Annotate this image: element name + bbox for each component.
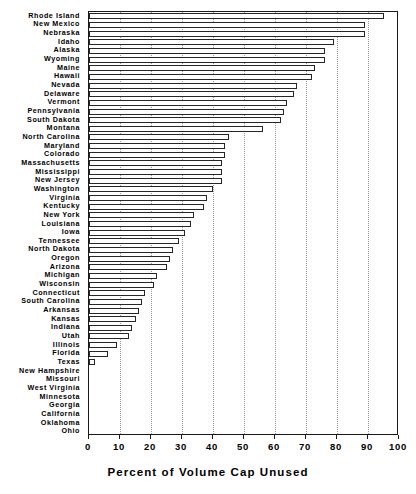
bar-series bbox=[89, 12, 397, 434]
category-label-new-jersey: New Jersey bbox=[35, 175, 80, 184]
category-label-california: California bbox=[41, 409, 80, 418]
category-label-hawaii: Hawaii bbox=[54, 71, 80, 80]
bar-louisiana bbox=[89, 221, 191, 227]
category-label-delaware: Delaware bbox=[44, 89, 80, 98]
category-label-missouri: Missouri bbox=[46, 374, 80, 383]
category-label-arizona: Arizona bbox=[50, 262, 80, 271]
category-label-maryland: Maryland bbox=[44, 141, 80, 150]
category-label-louisiana: Louisiana bbox=[42, 219, 81, 228]
bar-south-carolina bbox=[89, 299, 142, 305]
category-label-south-dakota: South Dakota bbox=[27, 115, 80, 124]
bar-delaware bbox=[89, 91, 294, 97]
x-tick-label-30: 30 bbox=[175, 441, 187, 452]
bar-virginia bbox=[89, 195, 207, 201]
bar-kansas bbox=[89, 316, 136, 322]
x-tick-label-40: 40 bbox=[206, 441, 218, 452]
bar-tennessee bbox=[89, 238, 179, 244]
x-tick-label-60: 60 bbox=[268, 441, 280, 452]
bar-arizona bbox=[89, 264, 167, 270]
category-label-tennessee: Tennessee bbox=[38, 236, 80, 245]
x-axis-tick-labels: 0102030405060708090100 bbox=[88, 441, 398, 455]
bar-new-mexico bbox=[89, 22, 365, 28]
bar-florida bbox=[89, 351, 108, 357]
category-label-oregon: Oregon bbox=[51, 253, 80, 262]
category-label-arkansas: Arkansas bbox=[43, 305, 80, 314]
bar-michigan bbox=[89, 273, 157, 279]
bar-montana bbox=[89, 126, 263, 132]
category-label-new-mexico: New Mexico bbox=[33, 19, 80, 28]
x-tick-10 bbox=[119, 435, 120, 439]
bar-mississippi bbox=[89, 169, 222, 175]
x-tick-label-70: 70 bbox=[299, 441, 311, 452]
category-label-utah: Utah bbox=[62, 331, 80, 340]
bar-iowa bbox=[89, 230, 185, 236]
category-label-illinois: Illinois bbox=[53, 340, 80, 349]
bar-rhode-island bbox=[89, 13, 384, 19]
bar-massachusetts bbox=[89, 160, 222, 166]
category-label-north-dakota: North Dakota bbox=[28, 244, 80, 253]
category-label-minnesota: Minnesota bbox=[40, 392, 81, 401]
category-label-florida: Florida bbox=[52, 348, 80, 357]
category-label-south-carolina: South Carolina bbox=[21, 296, 80, 305]
x-tick-90 bbox=[367, 435, 368, 439]
category-label-massachusetts: Massachusetts bbox=[21, 158, 80, 167]
category-label-mississippi: Mississippi bbox=[35, 167, 80, 176]
bar-arkansas bbox=[89, 308, 139, 314]
category-label-virginia: Virginia bbox=[49, 193, 80, 202]
x-tick-30 bbox=[181, 435, 182, 439]
x-tick-label-20: 20 bbox=[144, 441, 156, 452]
category-label-wisconsin: Wisconsin bbox=[39, 279, 80, 288]
category-label-montana: Montana bbox=[47, 123, 80, 132]
category-label-indiana: Indiana bbox=[51, 322, 80, 331]
category-label-kansas: Kansas bbox=[51, 314, 80, 323]
category-label-nevada: Nevada bbox=[51, 80, 80, 89]
bar-nebraska bbox=[89, 31, 365, 37]
category-label-new-hampshire: New Hampshire bbox=[19, 366, 80, 375]
bar-indiana bbox=[89, 325, 132, 331]
x-axis-title: Percent of Volume Cap Unused bbox=[0, 466, 416, 478]
category-label-idaho: Idaho bbox=[58, 37, 80, 46]
bar-pennsylvania bbox=[89, 109, 284, 115]
bar-kentucky bbox=[89, 204, 204, 210]
category-label-connecticut: Connecticut bbox=[32, 288, 80, 297]
x-tick-label-10: 10 bbox=[113, 441, 125, 452]
x-tick-0 bbox=[88, 435, 89, 439]
bar-north-carolina bbox=[89, 134, 229, 140]
x-tick-label-80: 80 bbox=[330, 441, 342, 452]
x-tick-label-50: 50 bbox=[237, 441, 249, 452]
bar-washington bbox=[89, 186, 213, 192]
bar-alaska bbox=[89, 48, 325, 54]
category-label-west-virginia: West Virginia bbox=[28, 383, 80, 392]
category-label-washington: Washington bbox=[34, 184, 80, 193]
category-label-texas: Texas bbox=[57, 357, 80, 366]
bar-colorado bbox=[89, 152, 225, 158]
category-label-kentucky: Kentucky bbox=[43, 201, 80, 210]
category-label-colorado: Colorado bbox=[44, 149, 80, 158]
category-axis-labels: Rhode IslandNew MexicoNebraskaIdahoAlask… bbox=[0, 11, 84, 435]
x-tick-100 bbox=[398, 435, 399, 439]
bar-wyoming bbox=[89, 57, 325, 63]
x-tick-40 bbox=[212, 435, 213, 439]
category-label-rhode-island: Rhode Island bbox=[28, 11, 80, 20]
x-tick-20 bbox=[150, 435, 151, 439]
category-label-new-york: New York bbox=[44, 210, 81, 219]
bar-nevada bbox=[89, 83, 297, 89]
x-tick-label-90: 90 bbox=[361, 441, 373, 452]
bar-hawaii bbox=[89, 74, 312, 80]
category-label-pennsylvania: Pennsylvania bbox=[27, 106, 80, 115]
x-tick-70 bbox=[305, 435, 306, 439]
category-label-maine: Maine bbox=[57, 63, 80, 72]
bar-south-dakota bbox=[89, 117, 281, 123]
bar-idaho bbox=[89, 39, 334, 45]
x-axis-ticks bbox=[88, 435, 398, 439]
bar-new-york bbox=[89, 212, 194, 218]
bar-wisconsin bbox=[89, 282, 154, 288]
category-label-alaska: Alaska bbox=[54, 45, 80, 54]
category-label-nebraska: Nebraska bbox=[43, 28, 80, 37]
bar-illinois bbox=[89, 342, 117, 348]
category-label-north-carolina: North Carolina bbox=[22, 132, 80, 141]
bar-connecticut bbox=[89, 290, 145, 296]
x-tick-label-0: 0 bbox=[85, 441, 91, 452]
bar-chart: Rhode IslandNew MexicoNebraskaIdahoAlask… bbox=[0, 0, 416, 494]
bar-texas bbox=[89, 359, 95, 365]
